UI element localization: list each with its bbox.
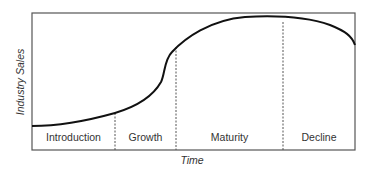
x-axis-label: Time <box>180 154 203 166</box>
stage-label-introduction: Introduction <box>46 131 101 143</box>
stage-label-maturity: Maturity <box>211 131 249 143</box>
product-life-cycle-diagram: Introduction Growth Maturity Decline Tim… <box>0 0 370 172</box>
sales-curve <box>32 16 355 126</box>
stage-label-decline: Decline <box>301 131 336 143</box>
stage-label-growth: Growth <box>129 131 163 143</box>
y-axis-label: Industry Sales <box>14 48 26 115</box>
